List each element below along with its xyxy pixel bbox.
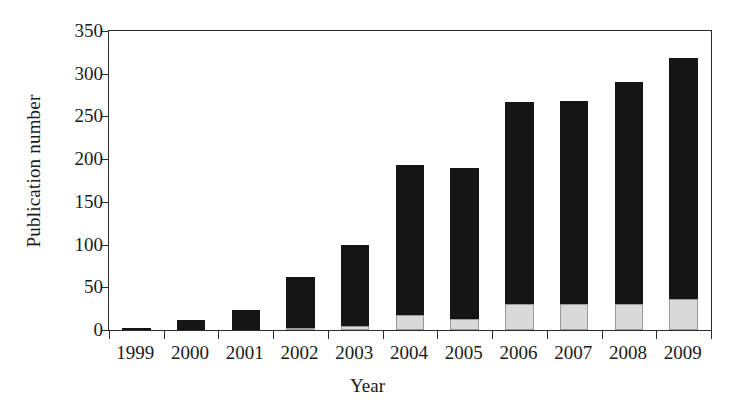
bar-2001	[232, 310, 260, 331]
x-tick-mark	[164, 330, 165, 339]
bar-segment-upper	[341, 245, 369, 325]
bar-2008	[615, 82, 643, 330]
x-tick-mark	[547, 330, 548, 339]
bar-2000	[177, 320, 205, 330]
x-tick-label-2006: 2006	[499, 342, 537, 364]
bar-segment-upper	[615, 82, 643, 304]
bar-1999	[122, 328, 150, 330]
x-tick-label-2001: 2001	[226, 342, 264, 364]
bar-segment-lower	[560, 304, 588, 330]
x-axis-title: Year	[0, 375, 735, 397]
plot-area: 050100150200250300350	[108, 30, 712, 331]
x-tick-label-2008: 2008	[609, 342, 647, 364]
x-tick-label-2000: 2000	[171, 342, 209, 364]
bar-2002	[286, 277, 314, 330]
y-tick-label: 100	[75, 234, 104, 256]
bar-2009	[669, 58, 697, 330]
bar-segment-upper	[450, 168, 478, 319]
x-tick-mark	[109, 330, 110, 339]
x-tick-mark	[711, 330, 712, 339]
x-tick-label-1999: 1999	[116, 342, 154, 364]
y-axis-title: Publication number	[23, 51, 45, 291]
bar-segment-upper	[396, 165, 424, 315]
y-tick-label: 350	[75, 20, 104, 42]
bar-segment-upper	[177, 320, 205, 330]
bar-segment-lower	[341, 326, 369, 330]
bar-segment-upper	[122, 328, 150, 330]
bar-2006	[505, 102, 533, 330]
x-tick-label-2003: 2003	[335, 342, 373, 364]
x-tick-label-2007: 2007	[554, 342, 592, 364]
bar-segment-upper	[286, 277, 314, 328]
y-tick-label: 300	[75, 63, 104, 85]
bar-segment-lower	[396, 315, 424, 330]
x-tick-mark	[218, 330, 219, 339]
bar-2005	[450, 168, 478, 330]
y-tick-label: 50	[84, 276, 103, 298]
x-tick-mark	[492, 330, 493, 339]
y-tick-label: 250	[75, 105, 104, 127]
bar-segment-lower	[505, 304, 533, 330]
bar-segment-upper	[669, 58, 697, 299]
publication-number-bar-chart: Publication number 050100150200250300350…	[0, 0, 735, 419]
x-tick-mark	[383, 330, 384, 339]
y-tick-label: 150	[75, 191, 104, 213]
x-tick-mark	[656, 330, 657, 339]
bar-segment-upper	[560, 101, 588, 304]
bar-2003	[341, 245, 369, 330]
x-tick-mark	[602, 330, 603, 339]
y-tick-label: 0	[94, 319, 104, 341]
x-tick-label-2002: 2002	[281, 342, 319, 364]
bar-2004	[396, 165, 424, 330]
bar-segment-upper	[232, 310, 260, 331]
bar-segment-lower	[286, 328, 314, 330]
bar-segment-lower	[615, 304, 643, 330]
x-tick-mark	[328, 330, 329, 339]
x-tick-mark	[273, 330, 274, 339]
x-tick-label-2005: 2005	[445, 342, 483, 364]
x-tick-mark	[437, 330, 438, 339]
bar-segment-lower	[669, 299, 697, 330]
x-tick-label-2009: 2009	[664, 342, 702, 364]
bar-segment-lower	[450, 319, 478, 330]
bar-2007	[560, 101, 588, 330]
y-tick-label: 200	[75, 148, 104, 170]
bar-segment-upper	[505, 102, 533, 304]
x-tick-label-2004: 2004	[390, 342, 428, 364]
